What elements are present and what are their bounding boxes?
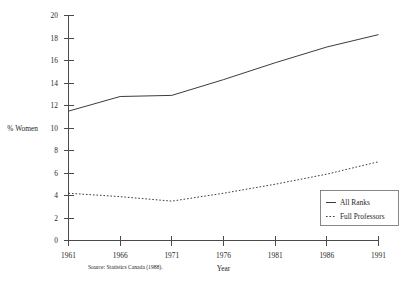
x-axis-title: Year	[217, 264, 231, 273]
y-axis-tick-labels: 20 18 16 14 12 10 8 6 4 2 0	[51, 11, 59, 245]
y-tick-label: 16	[51, 56, 59, 65]
y-tick-label: 14	[51, 79, 59, 88]
y-tick-label: 10	[51, 124, 59, 133]
y-tick-label: 4	[54, 191, 58, 200]
x-tick-label: 1986	[319, 251, 334, 260]
x-tick-label: 1991	[371, 251, 386, 260]
line-chart-canvas: 20 18 16 14 12 10 8 6 4 2 0 % Women 1961	[0, 0, 401, 283]
y-axis-title: % Women	[7, 124, 38, 133]
x-tick-label: 1971	[164, 251, 179, 260]
y-tick-label: 18	[51, 34, 59, 43]
y-tick-label: 0	[54, 236, 58, 245]
legend-label-all-ranks: All Ranks	[340, 198, 370, 207]
y-tick-label: 6	[54, 169, 58, 178]
legend-label-full-professors: Full Professors	[340, 212, 385, 221]
y-tick-label: 8	[54, 146, 58, 155]
x-axis-tick-labels: 1961 1966 1971 1976 1981 1986 1991	[61, 251, 386, 260]
x-tick-label: 1961	[61, 251, 76, 260]
y-tick-label: 12	[51, 101, 59, 110]
chart-figure: 20 18 16 14 12 10 8 6 4 2 0 % Women 1961	[0, 0, 401, 283]
series-line-all-ranks	[69, 35, 379, 112]
chart-legend: All Ranks Full Professors	[321, 191, 399, 226]
source-note: Source: Statistics Canada (1988).	[88, 264, 163, 271]
x-tick-label: 1981	[268, 251, 283, 260]
y-tick-label: 2	[54, 214, 58, 223]
y-tick-label: 20	[51, 11, 59, 20]
x-tick-label: 1976	[216, 251, 231, 260]
x-tick-label: 1966	[113, 251, 128, 260]
